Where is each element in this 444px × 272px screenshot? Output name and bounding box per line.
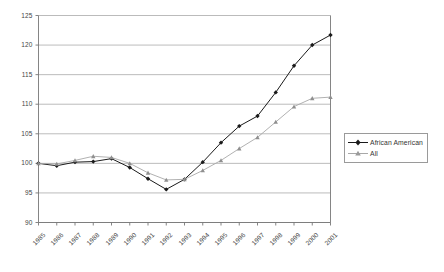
data-point-marker: [164, 187, 168, 191]
y-tick-label: 90: [11, 219, 33, 226]
data-point-marker: [237, 146, 241, 150]
data-point-marker: [292, 104, 296, 108]
data-point-marker: [146, 171, 150, 175]
data-point-marker: [146, 177, 150, 181]
data-point-marker: [328, 33, 332, 37]
legend-item-all[interactable]: All: [348, 148, 423, 159]
line-chart: 9095100105110115120125 19851986198719881…: [0, 0, 444, 272]
legend-marker-diamond-icon: [348, 138, 368, 147]
legend-label-african-american: African American: [370, 139, 423, 146]
data-point-marker: [201, 168, 205, 172]
axis-lines: [36, 16, 331, 223]
gridlines: [39, 16, 331, 223]
y-tick-label: 105: [11, 130, 33, 137]
y-tick-label: 100: [11, 159, 33, 166]
data-point-marker: [219, 158, 223, 162]
legend-marker-triangle-icon: [348, 149, 368, 158]
legend-label-all: All: [370, 150, 378, 157]
series-line-all: [39, 97, 331, 180]
y-tick-label: 120: [11, 41, 33, 48]
data-series: [36, 33, 332, 192]
chart-legend: African American All: [344, 133, 428, 163]
y-tick-label: 115: [11, 71, 33, 78]
legend-item-african-american[interactable]: African American: [348, 137, 423, 148]
y-tick-label: 125: [11, 12, 33, 19]
data-point-marker: [128, 165, 132, 169]
y-tick-label: 95: [11, 189, 33, 196]
y-tick-label: 110: [11, 100, 33, 107]
